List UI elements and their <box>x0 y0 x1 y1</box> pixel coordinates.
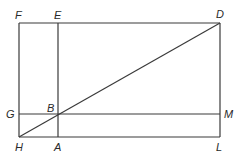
label-E: E <box>54 9 62 21</box>
label-F: F <box>15 9 23 21</box>
label-D: D <box>216 8 224 20</box>
label-B: B <box>47 102 54 114</box>
label-G: G <box>6 108 15 120</box>
label-H: H <box>15 141 23 153</box>
geometry-diagram: F E D G B M H A L <box>0 0 241 158</box>
label-A: A <box>53 141 61 153</box>
segment-HD-diagonal <box>19 23 220 137</box>
label-M: M <box>224 108 234 120</box>
label-L: L <box>216 141 222 153</box>
